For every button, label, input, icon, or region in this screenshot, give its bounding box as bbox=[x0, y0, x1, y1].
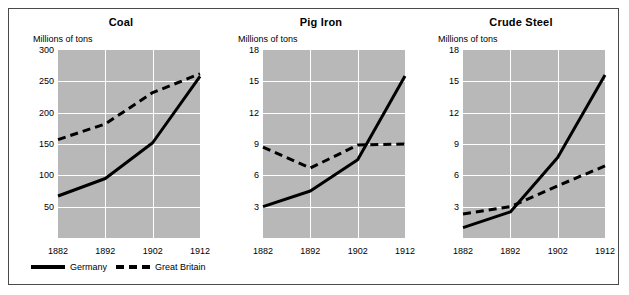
y-tick-label: 18 bbox=[423, 45, 459, 55]
x-tick-label: 1892 bbox=[500, 246, 520, 256]
y-tick-label: 50 bbox=[23, 202, 54, 212]
x-tick-label: 1882 bbox=[453, 246, 473, 256]
figure-frame: CoalMillions of tons50100150200250300188… bbox=[8, 8, 619, 285]
y-tick-label: 12 bbox=[423, 108, 459, 118]
series-line-germany bbox=[58, 76, 200, 196]
chart-title-crude-steel: Crude Steel bbox=[423, 16, 619, 28]
y-tick-label: 200 bbox=[23, 108, 54, 118]
series-line-germany bbox=[463, 75, 605, 227]
chart-title-coal: Coal bbox=[23, 16, 219, 28]
plot-area-coal bbox=[58, 50, 200, 238]
y-tick-label: 6 bbox=[423, 170, 459, 180]
y-tick-label: 150 bbox=[23, 139, 54, 149]
y-tick-label: 6 bbox=[223, 170, 259, 180]
legend: Germany Great Britain bbox=[31, 262, 206, 272]
y-tick-label: 9 bbox=[423, 139, 459, 149]
y-tick-label: 12 bbox=[223, 108, 259, 118]
y-axis-unit-label: Millions of tons bbox=[33, 34, 93, 44]
chart-panel-crude-steel: Crude SteelMillions of tons3691215181882… bbox=[423, 9, 619, 264]
legend-label-germany: Germany bbox=[70, 262, 107, 272]
y-tick-label: 3 bbox=[423, 202, 459, 212]
chart-panel-coal: CoalMillions of tons50100150200250300188… bbox=[23, 9, 219, 264]
x-tick-label: 1882 bbox=[253, 246, 273, 256]
y-axis-unit-label: Millions of tons bbox=[238, 34, 298, 44]
y-tick-label: 15 bbox=[223, 76, 259, 86]
series-layer bbox=[58, 50, 200, 238]
figure-root: CoalMillions of tons50100150200250300188… bbox=[0, 0, 629, 295]
legend-item-great-britain: Great Britain bbox=[116, 262, 206, 272]
x-tick-label: 1892 bbox=[300, 246, 320, 256]
x-tick-label: 1912 bbox=[190, 246, 210, 256]
series-layer bbox=[263, 50, 405, 238]
series-layer bbox=[463, 50, 605, 238]
y-tick-label: 18 bbox=[223, 45, 259, 55]
dashed-line-icon bbox=[116, 263, 150, 271]
y-tick-label: 3 bbox=[223, 202, 259, 212]
y-tick-label: 300 bbox=[23, 45, 54, 55]
chart-title-pig-iron: Pig Iron bbox=[223, 16, 419, 28]
series-line-germany bbox=[263, 76, 405, 207]
x-tick-label: 1912 bbox=[395, 246, 415, 256]
x-tick-label: 1892 bbox=[95, 246, 115, 256]
x-tick-label: 1902 bbox=[548, 246, 568, 256]
x-tick-label: 1912 bbox=[595, 246, 615, 256]
y-axis-unit-label: Millions of tons bbox=[438, 34, 498, 44]
chart-panel-pig-iron: Pig IronMillions of tons3691215181882189… bbox=[223, 9, 419, 264]
x-tick-label: 1902 bbox=[143, 246, 163, 256]
y-tick-label: 250 bbox=[23, 76, 54, 86]
y-tick-label: 15 bbox=[423, 76, 459, 86]
legend-item-germany: Germany bbox=[31, 262, 107, 272]
y-tick-label: 9 bbox=[223, 139, 259, 149]
legend-label-great-britain: Great Britain bbox=[155, 262, 206, 272]
series-line-great-britain bbox=[463, 166, 605, 214]
y-tick-label: 100 bbox=[23, 170, 54, 180]
plot-area-pig-iron bbox=[263, 50, 405, 238]
x-tick-label: 1882 bbox=[48, 246, 68, 256]
series-line-great-britain bbox=[263, 144, 405, 168]
x-tick-label: 1902 bbox=[348, 246, 368, 256]
solid-line-icon bbox=[31, 263, 65, 271]
plot-area-crude-steel bbox=[463, 50, 605, 238]
